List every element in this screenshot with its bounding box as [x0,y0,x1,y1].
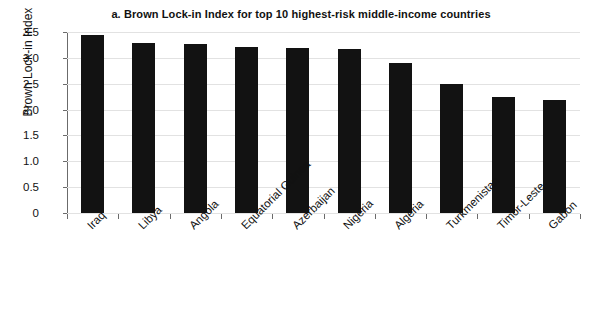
y-tick-label: 0 [7,207,39,219]
y-tick-mark [63,135,67,136]
x-tick-mark [529,214,530,219]
y-tick-mark [63,110,67,111]
chart-title: a. Brown Lock-in Index for top 10 highes… [0,8,602,20]
bar [132,43,155,213]
bar [440,84,463,213]
bar [492,97,515,213]
x-tick-mark [67,214,68,219]
y-tick-mark [63,187,67,188]
y-tick-label: 3.0 [7,52,39,64]
y-tick-label: 1.0 [7,155,39,167]
y-tick-label: 1.5 [7,129,39,141]
y-tick-label: 2.0 [7,104,39,116]
plot-area: 3.53.02.52.01.51.00.50 [67,32,580,213]
x-tick-mark [477,214,478,219]
x-tick-mark [118,214,119,219]
x-tick-mark [375,214,376,219]
bar [184,44,207,213]
x-tick-mark [324,214,325,219]
x-tick-mark [170,214,171,219]
x-tick-mark [426,214,427,219]
y-tick-mark [63,161,67,162]
bar [543,100,566,213]
y-tick-mark [63,84,67,85]
y-tick-mark [63,32,67,33]
y-tick-mark [63,58,67,59]
bar [81,35,104,213]
bar [389,63,412,213]
bar [338,49,361,213]
bar [235,47,258,213]
y-axis-title: Brown Lock-in Index [21,0,35,142]
gridline [67,32,580,33]
chart-figure: a. Brown Lock-in Index for top 10 highes… [0,0,602,310]
y-tick-label: 2.5 [7,78,39,90]
x-tick-mark [272,214,273,219]
x-tick-mark [580,214,581,219]
y-tick-label: 3.5 [7,26,39,38]
x-tick-mark [221,214,222,219]
y-tick-label: 0.5 [7,181,39,193]
